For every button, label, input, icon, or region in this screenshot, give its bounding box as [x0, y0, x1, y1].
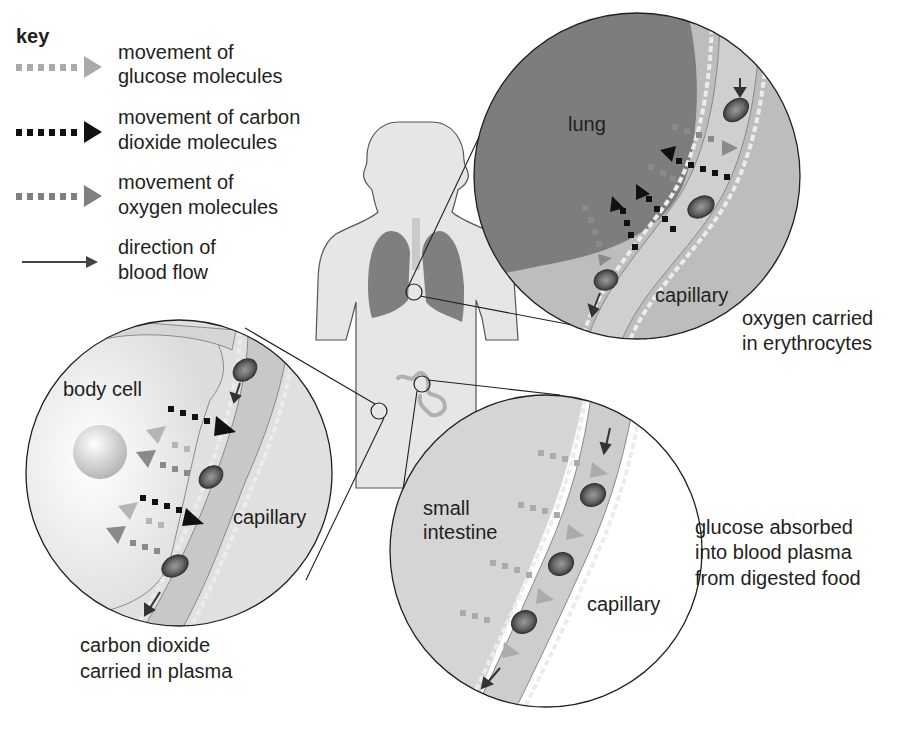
glucose-arrow-icon	[16, 56, 102, 78]
key-blood-flow-label-line1: direction of	[118, 235, 216, 259]
cell-nucleus	[73, 425, 127, 479]
key-blood-flow-label-line2: blood flow	[118, 260, 208, 284]
key-glucose-label-line2: glucose molecules	[118, 64, 283, 88]
small-intestine-label-line1: small	[423, 496, 470, 520]
lung-capillary-label: capillary	[655, 283, 728, 307]
intestine-caption-line3: from digested food	[695, 566, 861, 590]
carbon-dioxide-arrow-icon	[16, 121, 102, 143]
lung-label: lung	[568, 112, 606, 136]
blood-flow-arrow-icon	[22, 256, 98, 268]
small-intestine-label-line2: intestine	[423, 520, 498, 544]
intestine-caption-line1: glucose absorbed	[695, 515, 853, 539]
body-cell-label: body cell	[63, 377, 142, 401]
key-oxygen-label-line1: movement of	[118, 170, 234, 194]
intestine-capillary-label: capillary	[587, 592, 660, 616]
key-oxygen-label-line2: oxygen molecules	[118, 195, 278, 219]
lung-caption-line1: oxygen carried	[742, 306, 873, 330]
lung-caption-line2: in erythrocytes	[742, 331, 872, 355]
body-cell-capillary-label: capillary	[233, 505, 306, 529]
lung-panel	[470, 10, 810, 350]
key-title: key	[16, 24, 49, 48]
key-co2-label-line1: movement of carbon	[118, 105, 300, 129]
body-cell-panel	[20, 310, 340, 640]
oxygen-arrow-icon	[16, 185, 102, 207]
key-glucose-label-line1: movement of	[118, 40, 234, 64]
body-cell-caption-line1: carbon dioxide	[80, 633, 210, 657]
trachea	[412, 218, 420, 270]
key-icons	[16, 56, 102, 268]
body-cell-caption-line2: carried in plasma	[80, 659, 232, 683]
intestine-caption-line2: into blood plasma	[695, 540, 852, 564]
key-co2-label-line2: dioxide molecules	[118, 130, 277, 154]
